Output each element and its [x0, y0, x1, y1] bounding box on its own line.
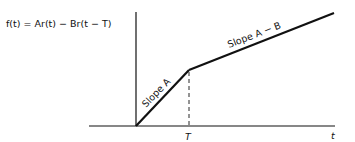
- ramp-function-diagram: f(t) = Ar(t) − Br(t − T) Slope A Slope A…: [0, 0, 355, 142]
- equation-label: f(t) = Ar(t) − Br(t − T): [6, 18, 111, 29]
- breakpoint-t-label: T: [185, 131, 192, 142]
- x-axis-label: t: [331, 130, 336, 141]
- slope-a-minus-b-segment: [189, 13, 334, 70]
